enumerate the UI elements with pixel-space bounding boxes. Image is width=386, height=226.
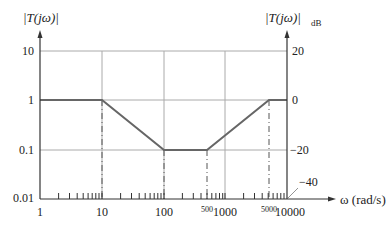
right-axis-subscript: dB	[311, 18, 322, 28]
x-tick-1: 1	[37, 205, 43, 219]
x-tick-10000: 10000	[275, 205, 305, 219]
x-tick-1000: 1000	[213, 205, 237, 219]
db-tick-minus40: −40	[299, 175, 318, 189]
x-tick-100: 100	[155, 205, 173, 219]
db-tick-0: 0	[292, 93, 298, 107]
x-tick-500: 500	[201, 205, 213, 214]
minor-ticks	[59, 193, 284, 199]
y-tick-10: 10	[22, 44, 34, 58]
y-tick-1: 1	[28, 93, 34, 107]
left-axis-title: |T(jω)|	[23, 10, 59, 25]
axes	[40, 36, 330, 199]
y-tick-0.1: 0.1	[19, 143, 34, 157]
x-tick-10: 10	[96, 205, 108, 219]
bode-chart: |T(jω)| |T(jω)| dB ω (rad/s) 10 1 0.1 0.…	[0, 0, 386, 226]
db-tick-minus20: −20	[290, 143, 309, 157]
db-tick-20: 20	[292, 44, 304, 58]
x-axis-title: ω (rad/s)	[340, 192, 386, 207]
minus40-leader	[288, 188, 298, 198]
y-tick-0.01: 0.01	[13, 191, 34, 205]
right-axis-title: |T(jω)|	[265, 10, 301, 25]
